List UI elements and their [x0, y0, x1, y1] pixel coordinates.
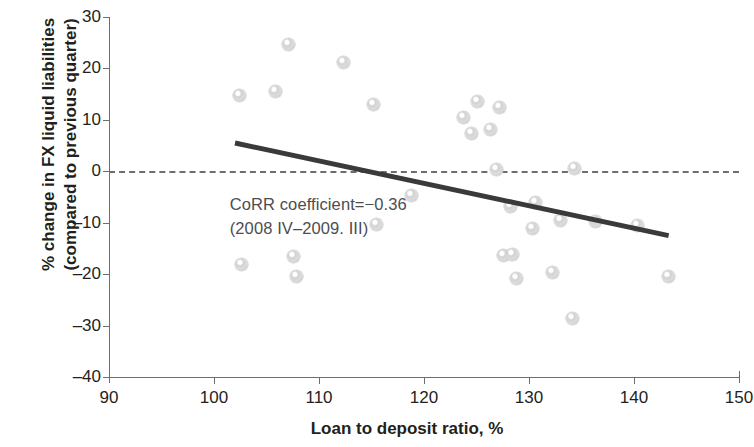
y-tick-label: –20 [53, 265, 101, 282]
scatter-point [484, 123, 497, 136]
scatter-point [471, 95, 484, 108]
y-tick-label: –10 [53, 214, 101, 231]
scatter-point [506, 248, 519, 261]
correlation-annotation: CoRR coefficient=−0.36 (2008 IV–2009. II… [230, 193, 407, 241]
scatter-point [546, 266, 559, 279]
scatter-point [662, 270, 675, 283]
scatter-point [367, 98, 380, 111]
x-tick-label: 120 [394, 389, 454, 406]
y-tick-label: 30 [53, 8, 101, 25]
x-axis-line [109, 377, 739, 378]
x-tick-label: 130 [499, 389, 559, 406]
x-tick-label: 90 [79, 389, 139, 406]
x-tick-label: 110 [289, 389, 349, 406]
x-axis-label: Loan to deposit ratio, % [0, 419, 754, 439]
x-tick-mark [739, 371, 740, 383]
scatter-point [589, 215, 602, 228]
scatter-point [554, 214, 567, 227]
scatter-point [490, 163, 503, 176]
scatter-point [526, 222, 539, 235]
x-tick-mark [214, 377, 215, 384]
y-tick-label: 10 [53, 111, 101, 128]
scatter-point [457, 111, 470, 124]
y-tick-label: 0 [53, 162, 101, 179]
scatter-point [235, 258, 248, 271]
scatter-point [493, 101, 506, 114]
x-tick-label: 100 [184, 389, 244, 406]
scatter-point [465, 127, 478, 140]
scatter-point [282, 38, 295, 51]
scatter-point [510, 272, 523, 285]
zero-reference-line [109, 171, 739, 173]
y-tick-label: 20 [53, 59, 101, 76]
scatter-point [269, 85, 282, 98]
scatter-point [233, 89, 246, 102]
y-axis-line [109, 17, 110, 377]
scatter-point [287, 250, 300, 263]
scatter-point [566, 312, 579, 325]
scatter-point [631, 219, 644, 232]
scatter-point [529, 196, 542, 209]
x-tick-mark [634, 377, 635, 384]
y-tick-label: –40 [53, 368, 101, 385]
chart-figure: % change in FX liquid liabilities (compa… [0, 0, 754, 447]
scatter-point [337, 56, 350, 69]
scatter-point [290, 270, 303, 283]
x-tick-mark [529, 377, 530, 384]
x-tick-label: 150 [709, 389, 754, 406]
y-tick-label: –30 [53, 317, 101, 334]
scatter-point [504, 200, 517, 213]
x-tick-mark [424, 377, 425, 384]
x-tick-label: 140 [604, 389, 664, 406]
scatter-point [568, 162, 581, 175]
x-tick-mark [319, 377, 320, 384]
